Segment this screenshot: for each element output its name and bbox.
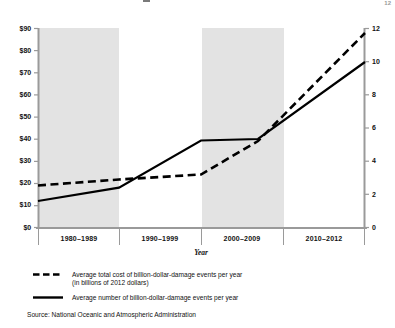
legend-label-average-number-line1: Average number of billion-dollar-damage … [72,294,239,302]
category-label-1990-1999: 1990–1999 [142,235,179,242]
right-tick-label-12: 12 [372,25,380,32]
left-tick-label-0: $0 [23,224,31,232]
left-tick-label-80: $80 [20,47,32,55]
right-axis-tick-labels: 12 10 8 6 4 2 0 [372,25,380,231]
left-tick-label-20: $20 [20,179,32,187]
left-tick-label-50: $50 [20,113,32,121]
left-tick-label-40: $40 [20,135,32,143]
right-tick-label-10: 10 [372,58,380,65]
left-tick-label-10: $10 [20,201,32,209]
legend-item-average-cost: Average total cost of billion-dollar-dam… [33,271,243,287]
right-tick-label-4: 4 [372,157,376,164]
category-label-2010-2012: 2010–2012 [306,235,343,242]
shaded-band-2000-2009 [202,28,284,227]
left-axis-ticks [34,29,38,228]
shaded-bands [38,28,284,227]
right-tick-label-0: 0 [372,224,376,231]
right-tick-label-8: 8 [372,91,376,98]
chart-legend: Average total cost of billion-dollar-dam… [33,271,243,302]
category-label-1980-1989: 1980–1989 [61,235,98,242]
source-note: Source: National Oceanic and Atmospheric… [27,311,196,319]
left-tick-label-70: $70 [20,69,32,77]
legend-item-average-number: Average number of billion-dollar-damage … [33,294,239,302]
legend-label-average-cost-line1: Average total cost of billion-dollar-dam… [72,271,243,279]
x-axis-title: Year [194,248,208,257]
line-chart: $90 $80 $70 $60 $50 $40 $30 $20 $10 $0 1… [0,0,395,328]
right-tick-label-6: 6 [372,124,376,131]
left-tick-label-30: $30 [20,157,32,165]
right-tick-label-2: 2 [372,191,376,198]
left-axis-tick-labels: $90 $80 $70 $60 $50 $40 $30 $20 $10 $0 [20,25,32,232]
left-tick-label-60: $60 [20,91,32,99]
legend-label-average-cost-line2: (in billions of 2012 dollars) [72,279,149,287]
left-tick-label-90: $90 [20,25,32,33]
category-label-2000-2009: 2000–2009 [224,235,261,242]
shaded-band-1980-1989 [38,28,119,227]
chart-figure: 12 $90 $80 $70 [0,0,395,328]
right-axis-ticks [365,29,369,228]
